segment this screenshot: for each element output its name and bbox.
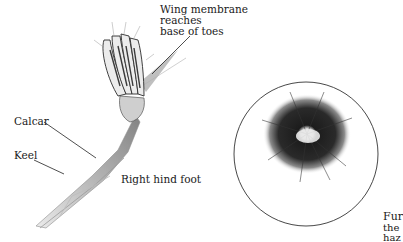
keel-leader	[34, 160, 64, 174]
calcar-leader	[44, 122, 96, 158]
fur-caption-line-1: Fur	[383, 212, 403, 223]
wing-membrane-line-3: base of toes	[160, 26, 248, 37]
keel-label: Keel	[14, 150, 37, 161]
right-hind-foot-caption: Right hind foot	[121, 174, 201, 185]
wing-membrane-leader	[152, 36, 190, 74]
wing-membrane-label: Wing membrane reaches base of toes	[160, 4, 248, 37]
fur-illustration	[234, 82, 378, 226]
fur-caption-line-3: haz	[383, 233, 403, 242]
foot-illustration	[36, 22, 186, 228]
fur-caption: Fur the haz	[383, 212, 403, 242]
calcar-label: Calcar	[14, 116, 49, 127]
